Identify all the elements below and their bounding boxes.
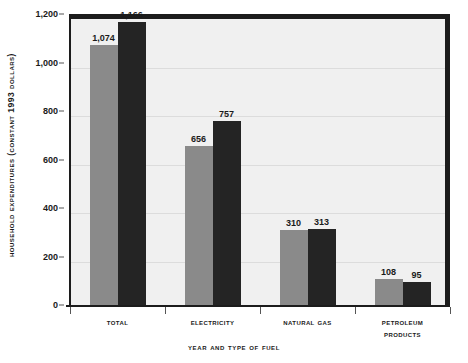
x-tick-mark <box>450 307 451 314</box>
bar-value-label: 95 <box>411 270 421 280</box>
bar: 95 <box>403 282 431 305</box>
y-tick-label: 800 <box>43 106 58 116</box>
y-tick-label: 600 <box>43 155 58 165</box>
x-category-label: Total <box>107 316 128 328</box>
bar-value-label: 1,074 <box>92 33 115 43</box>
bar-group: 10895 <box>375 14 431 305</box>
y-tick-label: 400 <box>43 203 58 213</box>
x-tick-mark <box>355 307 356 314</box>
x-tick-mark <box>260 307 261 314</box>
x-category-label: Natural Gas <box>283 316 331 328</box>
y-axis-title-text: Household Expenditures (Constant 1993 Do… <box>6 53 16 257</box>
bar: 108 <box>375 279 403 305</box>
x-axis-line <box>66 305 450 307</box>
bar: 1,166 <box>118 22 146 305</box>
bar: 757 <box>213 121 241 305</box>
bar-value-label: 1,166 <box>120 10 143 20</box>
y-tick-mark <box>59 256 64 257</box>
y-tick-mark <box>59 305 64 306</box>
y-tick-label: 0 <box>53 300 58 310</box>
plot-area: 1,0741,16665675731031310895 <box>70 14 450 305</box>
bar: 310 <box>280 230 308 305</box>
y-tick-label: 200 <box>43 252 58 262</box>
bar-group: 1,0741,166 <box>90 14 146 305</box>
bar-value-label: 310 <box>286 218 301 228</box>
bar-value-label: 656 <box>191 134 206 144</box>
x-category-label: PetroleumProducts <box>382 316 423 340</box>
bar-value-label: 108 <box>381 267 396 277</box>
x-category-label: Electricity <box>191 316 235 328</box>
x-axis-title: Year and Type of Fuel <box>0 342 468 352</box>
y-tick-mark <box>59 208 64 209</box>
y-tick-label: 1,200 <box>35 9 58 19</box>
y-tick-mark <box>59 62 64 63</box>
y-tick-mark <box>59 14 64 15</box>
bar: 1,074 <box>90 45 118 305</box>
bar-chart: Household Expenditures (Constant 1993 Do… <box>0 0 468 363</box>
y-axis-line <box>69 14 71 307</box>
y-tick-label: 1,000 <box>35 58 58 68</box>
y-tick-mark <box>59 111 64 112</box>
bar: 656 <box>185 146 213 305</box>
y-tick-mark <box>59 159 64 160</box>
bar-group: 310313 <box>280 14 336 305</box>
x-tick-mark <box>70 307 71 314</box>
x-tick-mark <box>165 307 166 314</box>
bar: 313 <box>308 229 336 305</box>
bar-value-label: 313 <box>314 217 329 227</box>
bar-value-label: 757 <box>219 109 234 119</box>
y-axis-title: Household Expenditures (Constant 1993 Do… <box>0 0 22 310</box>
bar-group: 656757 <box>185 14 241 305</box>
y-axis-ticks: 02004006008001,0001,200 <box>22 0 64 363</box>
